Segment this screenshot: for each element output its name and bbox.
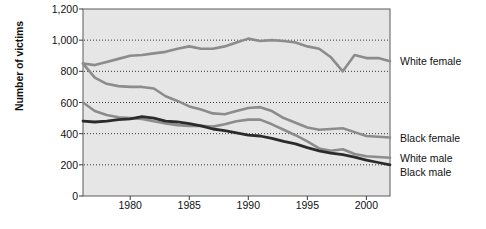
x-tick-label: 1995 [284, 199, 330, 211]
y-tick-label: 0 [32, 190, 78, 202]
x-tick-label: 1980 [107, 199, 153, 211]
y-tick-label: 400 [32, 128, 78, 140]
y-tick-label-text: 200 [32, 159, 78, 171]
y-tick-label: 800 [32, 65, 78, 77]
y-tick-label-text: 400 [32, 128, 78, 140]
y-tick-label: 1,000 [32, 34, 78, 46]
legend-item-black-female: Black female [400, 132, 460, 144]
x-tick-label: 1985 [166, 199, 212, 211]
x-tick-label: 1990 [225, 199, 271, 211]
y-tick-label-text: 1,000 [32, 34, 78, 46]
x-tick-label: 2000 [343, 199, 389, 211]
chart-figure: Number of victims 02004006008001,0001,20… [0, 0, 486, 229]
y-tick-label: 200 [32, 159, 78, 171]
y-tick-label: 600 [32, 97, 78, 109]
y-tick-label-text: 1,200 [32, 3, 78, 15]
legend-item-white-male: White male [400, 152, 453, 164]
y-tick-label-text: 0 [32, 190, 78, 202]
legend-item-black-male: Black male [400, 166, 451, 178]
y-tick-label-text: 600 [32, 97, 78, 109]
y-tick-label: 1,200 [32, 3, 78, 15]
y-tick-label-text: 800 [32, 65, 78, 77]
legend-item-white-female: White female [400, 55, 461, 67]
